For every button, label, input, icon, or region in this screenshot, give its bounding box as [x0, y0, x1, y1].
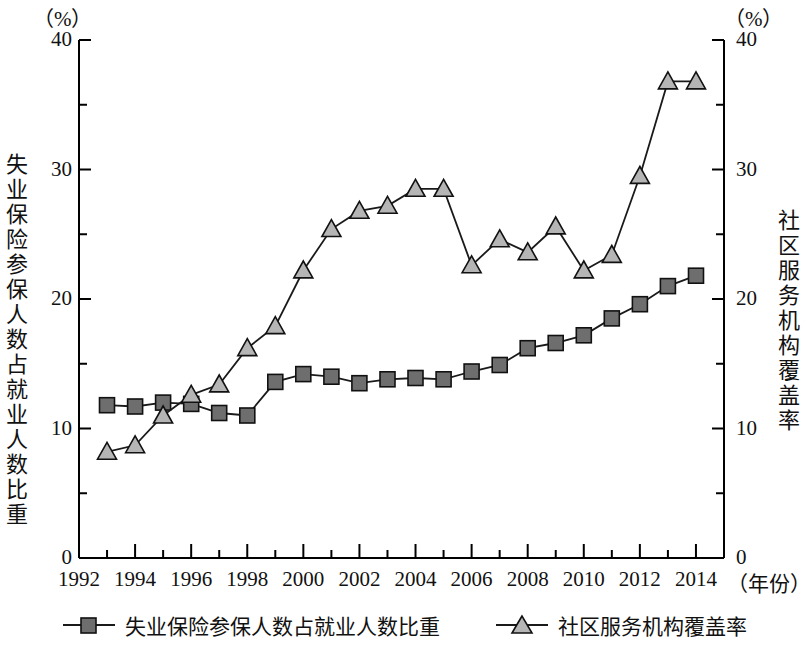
chart-figure: （%） （%） 失业保险参保人数占就业人数比重 社区服务机构覆盖率 （年份） 0… — [0, 0, 808, 646]
legend-label-1: 失业保险参保人数占就业人数比重 — [125, 610, 440, 640]
data-point-2011 — [602, 246, 621, 263]
legend-label-2: 社区服务机构覆盖率 — [558, 610, 747, 640]
x-tick-label-1996: 1996 — [161, 567, 221, 592]
data-point-1993 — [100, 398, 115, 413]
data-point-2008 — [520, 341, 535, 356]
right-y-tick-label-10: 10 — [736, 416, 770, 441]
left-y-tick-label-30: 30 — [38, 157, 72, 182]
data-point-2003 — [380, 372, 395, 387]
data-point-2007 — [492, 358, 507, 373]
data-point-1998 — [238, 339, 257, 356]
data-point-2001 — [324, 369, 339, 384]
data-point-1997 — [210, 375, 229, 392]
data-point-2009 — [546, 217, 565, 234]
data-point-2013 — [658, 72, 677, 89]
data-point-2010 — [576, 328, 591, 343]
legend-item-2[interactable]: 社区服务机构覆盖率 — [494, 610, 747, 640]
data-point-1998 — [240, 408, 255, 423]
x-tick-label-2010: 2010 — [554, 567, 614, 592]
data-point-2013 — [660, 279, 675, 294]
data-point-1999 — [268, 374, 283, 389]
x-tick-label-1994: 1994 — [105, 567, 165, 592]
data-point-2009 — [548, 336, 563, 351]
data-point-2004 — [408, 371, 423, 386]
right-y-tick-label-0: 0 — [736, 545, 770, 570]
data-point-2007 — [490, 230, 509, 247]
data-point-2002 — [352, 376, 367, 391]
plot-area — [0, 0, 808, 646]
data-point-2005 — [436, 372, 451, 387]
data-point-2003 — [378, 196, 397, 213]
data-point-2000 — [296, 367, 311, 382]
x-tick-label-2004: 2004 — [386, 567, 446, 592]
data-point-1994 — [128, 399, 143, 414]
legend-item-1[interactable]: 失业保险参保人数占就业人数比重 — [61, 610, 440, 640]
right-y-tick-label-30: 30 — [736, 157, 770, 182]
x-tick-label-2008: 2008 — [498, 567, 558, 592]
x-tick-label-2002: 2002 — [329, 567, 389, 592]
left-y-tick-label-20: 20 — [38, 286, 72, 311]
right-y-tick-label-40: 40 — [736, 27, 770, 52]
x-tick-label-2006: 2006 — [442, 567, 502, 592]
data-point-2000 — [294, 261, 313, 278]
square-marker — [61, 614, 117, 636]
left-y-tick-label-40: 40 — [38, 27, 72, 52]
data-point-2001 — [322, 220, 341, 237]
x-tick-label-1992: 1992 — [49, 567, 109, 592]
data-point-2014 — [689, 268, 704, 283]
chart-legend: 失业保险参保人数占就业人数比重社区服务机构覆盖率 — [0, 604, 808, 646]
data-point-1996 — [182, 385, 201, 402]
data-point-2011 — [604, 311, 619, 326]
data-point-2012 — [630, 167, 649, 184]
triangle-marker — [494, 614, 550, 636]
x-tick-label-2000: 2000 — [273, 567, 333, 592]
right-y-tick-label-20: 20 — [736, 286, 770, 311]
data-point-2010 — [574, 261, 593, 278]
data-point-1999 — [266, 317, 285, 334]
data-point-2004 — [406, 179, 425, 196]
x-tick-label-2012: 2012 — [610, 567, 670, 592]
data-point-2006 — [464, 364, 479, 379]
x-tick-label-2014: 2014 — [666, 567, 726, 592]
data-point-2014 — [687, 72, 706, 89]
data-point-2012 — [632, 297, 647, 312]
data-point-1997 — [212, 406, 227, 421]
x-tick-label-1998: 1998 — [217, 567, 277, 592]
series-2-triangle — [98, 72, 706, 459]
left-y-tick-label-10: 10 — [38, 416, 72, 441]
data-point-2005 — [434, 179, 453, 196]
